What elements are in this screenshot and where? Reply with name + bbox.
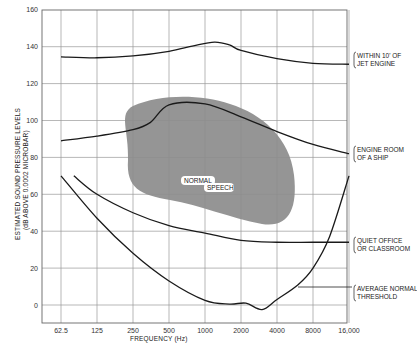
x-tick-label: 500: [163, 327, 175, 334]
series-label: OF A SHIP: [357, 154, 388, 161]
series-label: WITHIN 10' OF: [357, 52, 401, 59]
x-axis-title: FREQUENCY (Hz): [130, 335, 188, 343]
series-label: OR CLASSROOM: [357, 245, 410, 252]
svg-text:ESTIMATED SOUND PRESSURE LEVEL: ESTIMATED SOUND PRESSURE LEVELS: [14, 107, 21, 240]
y-tick-label: 140: [26, 43, 38, 50]
speech-label-line1: NORMAL: [184, 177, 212, 184]
x-tick-label: 62.5: [54, 327, 68, 334]
x-tick-label: 2000: [233, 327, 249, 334]
y-axis-title: ESTIMATED SOUND PRESSURE LEVELS (dB ABOV…: [14, 107, 30, 240]
y-tick-label: 160: [26, 6, 38, 13]
y-tick-label: 0: [34, 302, 38, 309]
series-label: QUIET OFFICE: [357, 237, 403, 245]
x-tick-label: 16,000: [338, 327, 360, 334]
series-label: THRESHOLD: [357, 293, 397, 300]
y-tick-label: 20: [30, 265, 38, 272]
y-tick-label: 60: [30, 191, 38, 198]
x-axis-ticks: 62.5125250500100020004000800016,000: [54, 327, 360, 334]
series-label: ENGINE ROOM: [357, 146, 404, 153]
x-tick-label: 125: [91, 327, 103, 334]
svg-text:(dB ABOVE 0.0002 MICROBAR): (dB ABOVE 0.0002 MICROBAR): [22, 130, 30, 230]
y-tick-label: 80: [30, 154, 38, 161]
x-tick-label: 1000: [197, 327, 213, 334]
x-tick-label: 4000: [269, 327, 285, 334]
series-label: AVERAGE NORMAL: [357, 285, 417, 292]
series-label: JET ENGINE: [357, 60, 396, 67]
y-tick-label: 100: [26, 117, 38, 124]
y-tick-label: 40: [30, 228, 38, 235]
chart-canvas: NORMAL SPEECH 160140120100806040200 62.5…: [0, 0, 417, 349]
y-tick-label: 120: [26, 80, 38, 87]
series-labels: WITHIN 10' OFJET ENGINEENGINE ROOMOF A S…: [354, 52, 417, 301]
x-tick-label: 8000: [305, 327, 321, 334]
speech-label-line2: SPEECH: [207, 184, 234, 191]
x-tick-label: 250: [127, 327, 139, 334]
normal-speech-region: [125, 97, 295, 225]
